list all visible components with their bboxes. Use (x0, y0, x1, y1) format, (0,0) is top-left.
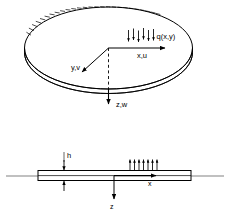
axis-label-y-v: y,v (71, 63, 80, 72)
thickness-label-h: h (67, 151, 71, 160)
plate-diagram-figure: q(x,y) x,u y,v z,w (0, 0, 229, 212)
axis-label-z-w: z,w (116, 100, 128, 109)
section-load-arrows (130, 160, 157, 171)
section-axis-label-z: z (110, 203, 114, 210)
isometric-plate-view: q(x,y) x,u y,v z,w (25, 7, 193, 109)
section-axis-label-x: x (148, 180, 152, 187)
diagram-canvas: q(x,y) x,u y,v z,w (0, 0, 229, 212)
plate-cross-section: h x z (6, 151, 224, 210)
load-label-q: q(x,y) (157, 32, 176, 41)
axis-label-x-u: x,u (137, 51, 147, 60)
